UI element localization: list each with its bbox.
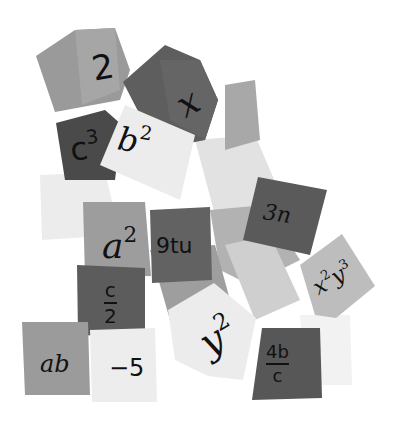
cube-9tu-label: 9tu xyxy=(156,235,193,257)
cube-ab-label: ab xyxy=(40,352,70,376)
cube-c3-label: c3 xyxy=(68,130,102,166)
denominator: c xyxy=(272,367,282,385)
cube-minus5-label: −5 xyxy=(109,356,144,380)
cube-c-over-2-label: c2 xyxy=(104,280,117,326)
math-cubes-illustration: 2 x c3 b2 a2 9tu 3n x2y3 c2 y2 ab −5 4bc xyxy=(0,0,394,425)
cube-a2-label: a2 xyxy=(102,228,137,264)
numerator: 4b xyxy=(266,343,289,361)
exponent: 2 xyxy=(123,222,137,247)
denominator: 2 xyxy=(104,306,117,326)
base: a xyxy=(102,225,123,266)
cube-4b-over-c-label: 4bc xyxy=(266,343,289,385)
cube-3n-label: 3n xyxy=(262,201,293,227)
blank-cube-behind-x xyxy=(225,80,260,150)
numerator: c xyxy=(105,280,116,300)
cube-b2-label: b2 xyxy=(115,122,153,159)
